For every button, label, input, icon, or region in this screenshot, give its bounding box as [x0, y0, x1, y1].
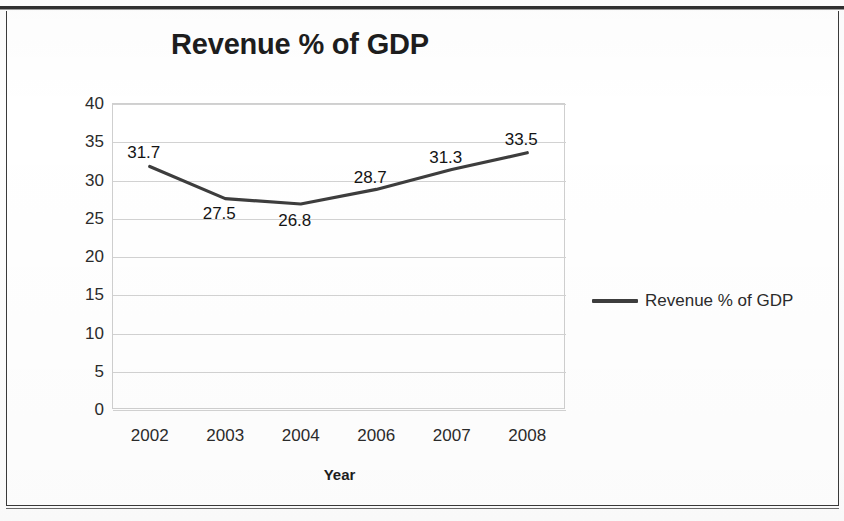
- y-axis-tick-labels: 4035302520151050: [34, 103, 104, 409]
- legend-label-revenue: Revenue % of GDP: [645, 291, 793, 311]
- data-label-2004: 26.8: [260, 211, 330, 231]
- y-tick-label-10: 10: [38, 324, 104, 344]
- x-tick-label-2003: 2003: [185, 426, 265, 446]
- x-tick-label-2006: 2006: [336, 426, 416, 446]
- page-top-rule-secondary: [0, 9, 844, 10]
- chart-screenshot: Revenue % of GDP percent of GDP Year 403…: [0, 0, 844, 521]
- y-tick-label-40: 40: [38, 94, 104, 114]
- data-label-2008: 33.5: [486, 130, 556, 150]
- data-label-2003: 27.5: [184, 204, 254, 224]
- x-tick-label-2007: 2007: [412, 426, 492, 446]
- data-label-2002: 31.7: [109, 143, 179, 163]
- data-label-2006: 28.7: [335, 168, 405, 188]
- chart-title: Revenue % of GDP: [0, 28, 600, 61]
- y-tick-label-15: 15: [38, 285, 104, 305]
- y-tick-label-35: 35: [38, 132, 104, 152]
- y-tick-label-5: 5: [38, 362, 104, 382]
- chart-legend: Revenue % of GDP: [592, 291, 793, 311]
- y-tick-label-0: 0: [38, 400, 104, 420]
- data-label-2007: 31.3: [411, 148, 481, 168]
- chart-frame-bottom-rule: [6, 508, 839, 509]
- gridline-0: [113, 410, 566, 411]
- y-tick-label-30: 30: [38, 171, 104, 191]
- x-axis-title: Year: [112, 466, 567, 483]
- x-tick-label-2004: 2004: [261, 426, 341, 446]
- y-tick-label-25: 25: [38, 209, 104, 229]
- x-tick-label-2002: 2002: [110, 426, 190, 446]
- x-tick-label-2008: 2008: [487, 426, 567, 446]
- legend-swatch-revenue: [592, 299, 638, 303]
- y-tick-label-20: 20: [38, 247, 104, 267]
